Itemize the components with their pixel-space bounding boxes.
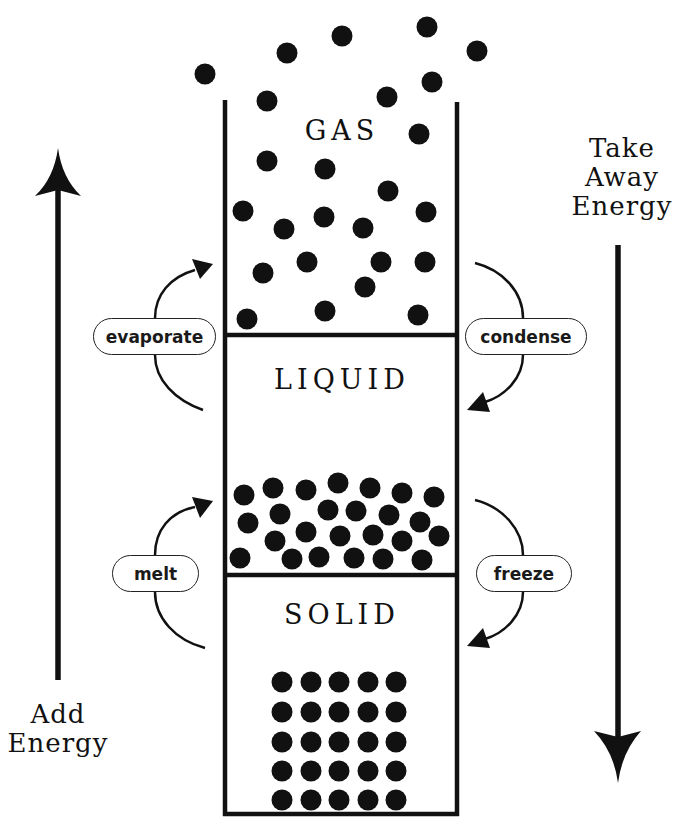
- gas-particle: [377, 87, 398, 108]
- liquid-particle: [318, 500, 339, 521]
- solid-particle: [358, 732, 379, 753]
- liquid-particle: [309, 547, 330, 568]
- state-label-solid: SOLID: [272, 601, 412, 628]
- solid-particle: [358, 790, 379, 811]
- solid-particle: [301, 702, 322, 723]
- add-energy-line2: Energy: [0, 729, 120, 758]
- take-away-energy-line2: Away: [562, 163, 682, 192]
- solid-particle: [272, 702, 293, 723]
- solid-particle: [329, 790, 350, 811]
- liquid-particle: [346, 501, 367, 522]
- gas-particle: [315, 301, 336, 322]
- gas-particle: [237, 309, 258, 330]
- gas-particle: [467, 41, 488, 62]
- arrowhead-icon: [192, 497, 213, 518]
- gas-particle: [277, 43, 298, 64]
- solid-particle: [386, 761, 407, 782]
- solid-particle: [386, 672, 407, 693]
- liquid-particles: [230, 473, 450, 571]
- solid-particle: [329, 672, 350, 693]
- gas-particle: [257, 151, 278, 172]
- solid-particle: [386, 790, 407, 811]
- gas-particle: [274, 219, 295, 240]
- add-energy-label: Add Energy: [0, 700, 120, 758]
- gas-particle: [417, 17, 438, 38]
- gas-particle: [233, 201, 254, 222]
- gas-particle: [195, 64, 216, 85]
- liquid-particle: [328, 473, 349, 494]
- add-energy-line1: Add: [0, 700, 120, 729]
- gas-particle: [257, 91, 278, 112]
- gas-particle: [297, 252, 318, 273]
- gas-particle: [353, 218, 374, 239]
- take-away-energy-label: Take Away Energy: [562, 134, 682, 221]
- evaporate-label: evaporate: [93, 318, 216, 355]
- solid-particle: [386, 702, 407, 723]
- liquid-particle: [392, 531, 413, 552]
- solid-particle: [358, 672, 379, 693]
- states-of-matter-diagram: GAS LIQUID SOLID evaporate condense melt…: [0, 0, 694, 836]
- solid-particle: [272, 790, 293, 811]
- state-label-gas: GAS: [290, 117, 394, 144]
- freeze-label: freeze: [476, 555, 572, 592]
- gas-particle: [416, 202, 437, 223]
- condense-label: condense: [465, 318, 587, 355]
- liquid-particle: [344, 548, 365, 569]
- gas-particle: [253, 263, 274, 284]
- liquid-particle: [412, 550, 433, 571]
- solid-particle: [301, 761, 322, 782]
- arrow-up-icon: [35, 148, 81, 196]
- liquid-particle: [238, 513, 259, 534]
- arrowhead-icon: [192, 259, 213, 279]
- solid-particle: [329, 702, 350, 723]
- liquid-particle: [330, 526, 351, 547]
- liquid-particle: [379, 505, 400, 526]
- state-label-liquid: LIQUID: [262, 366, 422, 393]
- liquid-particle: [282, 549, 303, 570]
- solid-particle: [358, 702, 379, 723]
- gas-particles: [195, 17, 488, 330]
- gas-particle: [315, 159, 336, 180]
- solid-particle: [358, 761, 379, 782]
- liquid-particle: [263, 478, 284, 499]
- liquid-particle: [265, 531, 286, 552]
- solid-particle: [329, 732, 350, 753]
- gas-particle: [378, 181, 399, 202]
- liquid-particle: [230, 548, 251, 569]
- liquid-particle: [424, 487, 445, 508]
- gas-particle: [332, 26, 353, 47]
- liquid-particle: [234, 485, 255, 506]
- solid-particle: [272, 672, 293, 693]
- liquid-particle: [410, 512, 431, 533]
- gas-particle: [408, 305, 429, 326]
- add-energy-arrow: [35, 148, 81, 680]
- liquid-particle: [363, 525, 384, 546]
- solid-particle: [301, 790, 322, 811]
- melt-label: melt: [112, 555, 199, 592]
- solid-particle: [329, 761, 350, 782]
- arrow-down-icon: [594, 731, 641, 783]
- liquid-particle: [392, 483, 413, 504]
- gas-particle: [371, 252, 392, 273]
- liquid-particle: [296, 522, 317, 543]
- solid-particle: [272, 732, 293, 753]
- solid-particle: [301, 732, 322, 753]
- liquid-particle: [296, 480, 317, 501]
- liquid-particle: [360, 478, 381, 499]
- solid-particles: [272, 672, 407, 811]
- take-away-energy-arrow: [594, 245, 641, 783]
- gas-particle: [314, 207, 335, 228]
- gas-particle: [415, 252, 436, 273]
- liquid-particle: [373, 549, 394, 570]
- liquid-particle: [270, 504, 291, 525]
- solid-particle: [301, 672, 322, 693]
- gas-particle: [409, 124, 430, 145]
- solid-particle: [272, 761, 293, 782]
- take-away-energy-line1: Take: [562, 134, 682, 163]
- gas-particle: [355, 277, 376, 298]
- gas-particle: [422, 72, 443, 93]
- liquid-particle: [429, 526, 450, 547]
- take-away-energy-line3: Energy: [562, 192, 682, 221]
- solid-particle: [386, 732, 407, 753]
